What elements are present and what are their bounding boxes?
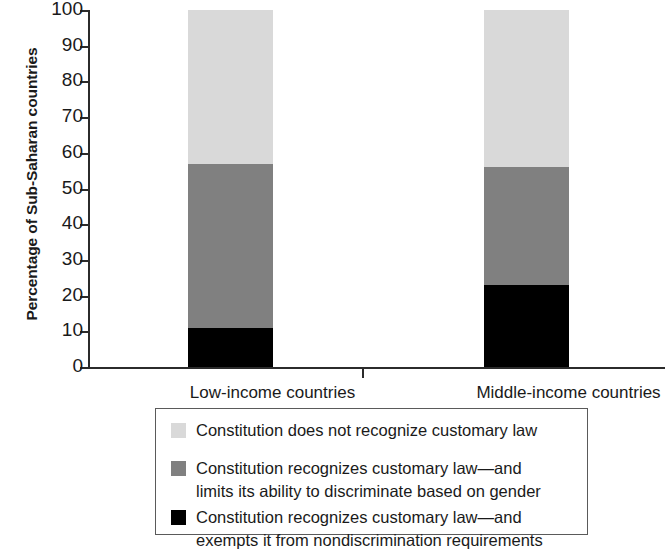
y-axis-tick-label: 10 bbox=[62, 320, 83, 340]
x-axis-tick-mark bbox=[362, 369, 364, 378]
legend-item: Constitution recognizes customary law—an… bbox=[171, 506, 543, 552]
chart-legend: Constitution does not recognize customar… bbox=[155, 408, 588, 535]
y-axis-tick-label: 50 bbox=[62, 178, 83, 198]
plot-area: 1009080706050403020100 Low-income countr… bbox=[88, 10, 665, 367]
legend-label: Constitution does not recognize customar… bbox=[196, 419, 537, 442]
y-axis-line bbox=[88, 10, 90, 368]
y-axis-tick-label: 80 bbox=[62, 70, 83, 90]
legend-swatch-icon bbox=[171, 510, 186, 525]
y-axis-tick-label: 70 bbox=[62, 106, 83, 126]
y-axis-tick-label: 40 bbox=[62, 213, 83, 233]
bar-segment bbox=[188, 10, 273, 164]
y-axis-tick-label: 20 bbox=[62, 285, 83, 305]
bar-segment bbox=[188, 164, 273, 328]
y-axis-title: Percentage of Sub-Saharan countries bbox=[21, 0, 43, 368]
x-axis-category-label: Middle-income countries bbox=[439, 382, 665, 404]
bar-segment bbox=[188, 328, 273, 367]
bar-segment bbox=[484, 167, 569, 285]
legend-label: Constitution recognizes customary law—an… bbox=[196, 506, 543, 552]
y-axis-tick-label: 90 bbox=[62, 35, 83, 55]
y-axis-tick-label: 30 bbox=[62, 249, 83, 269]
bar-column bbox=[188, 10, 273, 367]
bar-segment bbox=[484, 285, 569, 367]
y-axis-tick-label: 60 bbox=[62, 142, 83, 162]
legend-swatch-icon bbox=[171, 423, 186, 438]
y-axis-tick-label: 100 bbox=[51, 0, 83, 19]
bar-segment bbox=[484, 10, 569, 167]
legend-swatch-icon bbox=[171, 461, 186, 476]
x-axis-category-label: Low-income countries bbox=[163, 382, 383, 404]
y-axis-tick-label: 0 bbox=[72, 356, 83, 376]
x-axis-line bbox=[88, 367, 665, 369]
bar-column bbox=[484, 10, 569, 367]
legend-item: Constitution does not recognize customar… bbox=[171, 419, 537, 442]
legend-item: Constitution recognizes customary law—an… bbox=[171, 457, 541, 503]
legend-label: Constitution recognizes customary law—an… bbox=[196, 457, 541, 503]
